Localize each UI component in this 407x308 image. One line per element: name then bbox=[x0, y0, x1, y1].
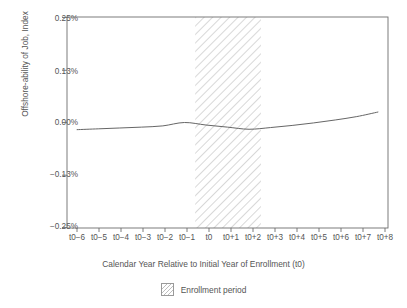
chart-legend: Enrollment period bbox=[0, 283, 407, 296]
enrollment-period-band bbox=[195, 17, 261, 228]
y-tick-marks bbox=[62, 18, 67, 228]
legend-label-enrollment-period: Enrollment period bbox=[181, 285, 247, 295]
legend-swatch-hatched-icon bbox=[161, 283, 174, 296]
x-tick-marks bbox=[77, 228, 385, 232]
chart-figure: Offshore-ability of Job, Index 0.25% 0.1… bbox=[0, 0, 407, 308]
x-axis-title: Calendar Year Relative to Initial Year o… bbox=[0, 259, 407, 269]
